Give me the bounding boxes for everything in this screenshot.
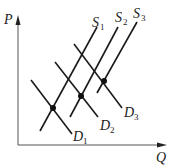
svg-text:1: 1 [100,22,105,32]
label-d3: D 3 [123,105,139,122]
svg-text:2: 2 [123,17,128,27]
label-s1: S 1 [92,15,105,32]
svg-text:D: D [72,129,83,144]
svg-text:1: 1 [83,136,88,146]
supply-demand-chart: P Q S 1 S 2 S 3 D 1 D 2 D 3 [0,0,169,165]
label-d1: D 1 [72,129,88,146]
equilibrium-point-3 [101,78,107,84]
equilibrium-point-1 [50,105,56,111]
svg-text:2: 2 [110,125,115,135]
label-d2: D 2 [99,118,115,135]
label-s3: S 3 [133,6,146,23]
svg-text:D: D [99,118,110,133]
x-axis-arrow-icon [157,143,167,148]
y-axis-arrow-icon [16,15,21,25]
svg-text:S: S [115,10,122,25]
svg-text:S: S [92,15,99,30]
y-axis-label: P [3,12,13,27]
svg-text:3: 3 [141,13,146,23]
demand-curve-d2 [55,62,98,117]
label-s2: S 2 [115,10,128,27]
svg-text:3: 3 [134,112,139,122]
equilibrium-point-2 [78,93,84,99]
svg-text:S: S [133,6,140,21]
x-axis-label: Q [156,150,166,165]
svg-text:D: D [123,105,134,120]
